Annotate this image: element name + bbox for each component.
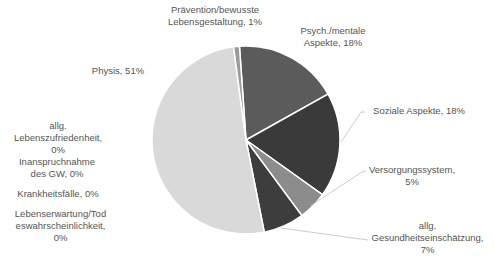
label-line: Inanspruchnahme xyxy=(12,156,102,168)
leader-line-gesundheit xyxy=(281,228,368,240)
label-soziale: Soziale Aspekte, 18% xyxy=(364,105,474,117)
label-line: Lebenszufriedenheit, xyxy=(8,132,108,144)
label-line: Soziale Aspekte, 18% xyxy=(364,105,474,117)
label-line: 5% xyxy=(362,176,462,188)
label-lebenserwartung: Lebenserwartung/Tod eswahrscheinlichkeit… xyxy=(8,208,113,244)
label-lebenszufriedenheit: allg. Lebenszufriedenheit, 0% xyxy=(8,120,108,156)
label-line: Gesundheitseinschätzung, xyxy=(365,232,490,244)
label-gesundheit: allg. Gesundheitseinschätzung, 7% xyxy=(365,220,490,256)
label-line: Krankheitsfälle, 0% xyxy=(8,188,108,200)
label-line: eswahrscheinlichkeit, xyxy=(8,220,113,232)
label-line: Prävention/bewusste xyxy=(165,4,265,16)
label-psych: Psych./mentale Aspekte, 18% xyxy=(288,25,378,49)
label-krankheitsfaelle: Krankheitsfälle, 0% xyxy=(8,188,108,200)
label-line: Aspekte, 18% xyxy=(288,37,378,49)
label-line: allg. xyxy=(8,120,108,132)
label-versorgung: Versorgungssystem, 5% xyxy=(362,164,462,188)
label-line: allg. xyxy=(365,220,490,232)
label-line: Lebensgestaltung, 1% xyxy=(165,16,265,28)
pie-slices xyxy=(152,46,340,234)
label-line: Physis, 51% xyxy=(88,65,148,77)
label-praevention: Prävention/bewusste Lebensgestaltung, 1% xyxy=(165,4,265,28)
label-line: 0% xyxy=(8,144,108,156)
label-line: des GW, 0% xyxy=(12,168,102,180)
label-line: 7% xyxy=(365,244,490,256)
label-line: Versorgungssystem, xyxy=(362,164,462,176)
label-inanspruchnahme: Inanspruchnahme des GW, 0% xyxy=(12,156,102,180)
leader-line-soziale xyxy=(341,112,365,142)
label-line: Lebenserwartung/Tod xyxy=(8,208,113,220)
label-line: Psych./mentale xyxy=(288,25,378,37)
label-physis: Physis, 51% xyxy=(88,65,148,77)
label-line: 0% xyxy=(8,232,113,244)
